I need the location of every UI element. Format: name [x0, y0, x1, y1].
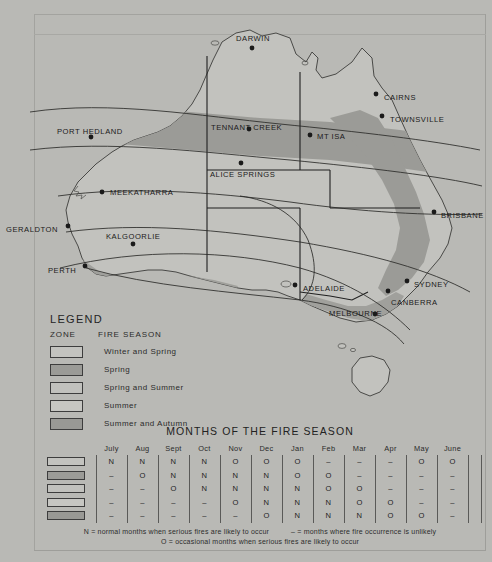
months-panel: MONTHS OF THE FIRE SEASON JulyAugSeptOct… [34, 425, 486, 547]
legend-zone-swatch [50, 400, 83, 412]
months-legend-note: N = normal months when serious fires are… [34, 527, 486, 547]
months-table-row: ––––ONNNOO–– [39, 496, 482, 510]
months-row-zone-swatch [47, 484, 85, 493]
months-cell: O [251, 509, 282, 523]
months-cell: – [437, 482, 468, 496]
legend-col-season: FIRE SEASON [98, 330, 162, 339]
months-header-cell: Nov [220, 444, 251, 455]
months-cell: – [406, 496, 437, 510]
city-label: TOWNSVILLE [390, 115, 444, 124]
months-cell: O [344, 482, 375, 496]
months-cell: – [189, 496, 220, 510]
city-label: PORT HEDLAND [57, 127, 123, 136]
city-label: CANBERRA [391, 298, 438, 307]
city-label: PERTH [48, 266, 76, 275]
months-cell: – [127, 482, 158, 496]
months-cell: – [96, 482, 127, 496]
months-cell: O [251, 455, 282, 469]
months-cell: O [158, 482, 189, 496]
months-cell: N [189, 482, 220, 496]
city-marker: TOWNSVILLE [380, 114, 445, 124]
months-table-head: JulyAugSeptOctNovDecJanFebMarAprMayJune [39, 444, 482, 455]
months-row-swatch-cell [39, 455, 97, 469]
months-row-swatch-cell [39, 509, 97, 523]
city-dot [250, 46, 255, 51]
months-row-swatch-cell [39, 482, 97, 496]
city-marker: GERALDTON [6, 224, 70, 234]
frame-border-bottom [34, 550, 486, 551]
months-cell: – [158, 496, 189, 510]
months-row-end [468, 455, 481, 469]
city-label: MELBOURNE [329, 309, 382, 318]
months-table-row: NNNNOOO–––OO [39, 455, 482, 469]
city-dot [308, 133, 313, 138]
months-cell: – [437, 496, 468, 510]
months-cell: N [127, 455, 158, 469]
city-label: BRISBANE [441, 211, 484, 220]
months-cell: – [189, 509, 220, 523]
months-header-cell: Dec [251, 444, 282, 455]
months-table-row: –––––ONNNOO– [39, 509, 482, 523]
months-cell: O [220, 455, 251, 469]
city-dot [374, 92, 379, 97]
months-cell: N [158, 469, 189, 483]
months-table-row: –ONNNNOO–––– [39, 469, 482, 483]
months-header-end [468, 444, 481, 455]
months-cell: – [313, 455, 344, 469]
city-label: DARWIN [236, 34, 270, 43]
months-row-swatch-cell [39, 469, 97, 483]
months-header-cell: Aug [127, 444, 158, 455]
months-row-zone-swatch [47, 471, 85, 480]
months-cell: N [282, 496, 313, 510]
city-label: ALICE SPRINGS [210, 170, 275, 179]
months-row-zone-swatch [47, 457, 85, 466]
legend-season-label: Summer [104, 401, 137, 410]
legend-zone-swatch [50, 346, 83, 358]
months-cell: N [189, 469, 220, 483]
months-cell: – [437, 509, 468, 523]
months-cell: – [375, 482, 406, 496]
months-title: MONTHS OF THE FIRE SEASON [34, 425, 486, 437]
legend-season-label: Spring [104, 365, 130, 374]
months-header-cell: Apr [375, 444, 406, 455]
note-occasional: O = occasional months when serious fires… [161, 538, 359, 545]
note-normal: N = normal months when serious fires are… [84, 528, 269, 535]
months-cell: – [158, 509, 189, 523]
city-label: SYDNEY [414, 280, 449, 289]
months-cell: N [220, 482, 251, 496]
city-label: CAIRNS [384, 93, 416, 102]
city-dot [386, 289, 391, 294]
city-marker: PERTH [48, 264, 87, 275]
months-cell: O [313, 482, 344, 496]
months-cell: O [406, 509, 437, 523]
tasmania [352, 356, 390, 396]
months-cell: O [344, 496, 375, 510]
city-label: KALGOORLIE [106, 232, 160, 241]
months-cell: – [344, 469, 375, 483]
city-dot [66, 224, 71, 229]
months-cell: O [375, 496, 406, 510]
city-marker: MELBOURNE [329, 309, 382, 318]
city-dot [239, 161, 244, 166]
months-cell: N [220, 469, 251, 483]
city-dot [380, 114, 385, 119]
months-row-end [468, 496, 481, 510]
months-cell: – [406, 482, 437, 496]
legend-season-label: Winter and Spring [104, 347, 177, 356]
fire-season-map-page: DARWINCAIRNSTOWNSVILLEPORT HEDLANDTENNAN… [0, 0, 492, 562]
months-cell: N [96, 455, 127, 469]
months-cell: N [313, 496, 344, 510]
legend-panel: LEGEND ZONEFIRE SEASON Winter and Spring… [50, 313, 265, 433]
legend-rows: Winter and SpringSpringSpring and Summer… [50, 343, 265, 432]
months-row-end [468, 482, 481, 496]
months-cell: O [282, 469, 313, 483]
city-label: TENNANT CREEK [211, 123, 282, 132]
months-cell: O [127, 469, 158, 483]
legend-zone-swatch [50, 382, 83, 394]
months-header-cell: Jan [282, 444, 313, 455]
city-label: GERALDTON [6, 225, 58, 234]
months-cell: N [158, 455, 189, 469]
months-header-cell: July [96, 444, 127, 455]
months-header-cell: Oct [189, 444, 220, 455]
months-cell: – [127, 509, 158, 523]
